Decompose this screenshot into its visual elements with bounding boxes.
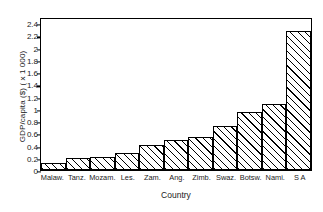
- bar[interactable]: [286, 31, 311, 170]
- x-tick-label: Tanz.: [65, 173, 90, 182]
- bar-slot: [139, 19, 164, 170]
- bar[interactable]: [262, 104, 287, 170]
- bar-slot: [237, 19, 262, 170]
- bar[interactable]: [66, 158, 91, 170]
- x-tick-label: Nami.: [263, 173, 288, 182]
- x-tick-label: Les.: [115, 173, 140, 182]
- bar-slot: [188, 19, 213, 170]
- chart-container: GDP/capita ($) ( x 1 000) 00.20.40.60.81…: [0, 0, 323, 212]
- y-tick-mark: [37, 86, 41, 87]
- bar-slot: [262, 19, 287, 170]
- bar-slot: [213, 19, 238, 170]
- bar-slot: [115, 19, 140, 170]
- y-tick-mark: [37, 37, 41, 38]
- bar-slot: [41, 19, 66, 170]
- bar-slot: [164, 19, 189, 170]
- x-tick-label: Zimb.: [189, 173, 214, 182]
- bar[interactable]: [115, 153, 140, 170]
- x-axis-label: Country: [40, 190, 312, 200]
- bar[interactable]: [41, 163, 66, 170]
- y-tick-mark: [37, 73, 41, 74]
- y-tick-mark: [37, 61, 41, 62]
- y-tick-mark: [37, 25, 41, 26]
- plot-area: [40, 18, 312, 171]
- x-tick-label: Botsw.: [238, 173, 263, 182]
- bar[interactable]: [237, 112, 262, 170]
- y-tick-mark: [37, 147, 41, 148]
- y-axis-tick-labels: 00.20.40.60.811.21.41.61.822.22.4: [9, 13, 38, 175]
- bar[interactable]: [188, 137, 213, 170]
- bar[interactable]: [90, 157, 115, 170]
- bar[interactable]: [164, 140, 189, 170]
- bar-series: [41, 19, 311, 170]
- y-tick-mark: [37, 110, 41, 111]
- y-tick-mark: [37, 159, 41, 160]
- bar[interactable]: [213, 126, 238, 170]
- x-tick-label: S A: [288, 173, 313, 182]
- bar-slot: [286, 19, 311, 170]
- y-tick-mark: [37, 135, 41, 136]
- y-tick-mark: [37, 98, 41, 99]
- x-axis-tick-labels: Malaw.Tanz.Mozam.Les.Zam.Ang.Zimb.Swaz.B…: [40, 173, 312, 182]
- x-tick-label: Swaz.: [214, 173, 239, 182]
- y-tick-mark: [37, 122, 41, 123]
- bar-slot: [90, 19, 115, 170]
- x-tick-label: Zam.: [140, 173, 165, 182]
- x-tick-label: Ang.: [165, 173, 190, 182]
- x-tick-label: Mozam.: [89, 173, 115, 182]
- bar-slot: [66, 19, 91, 170]
- x-tick-label: Malaw.: [40, 173, 65, 182]
- bar[interactable]: [139, 145, 164, 170]
- y-tick-mark: [37, 49, 41, 50]
